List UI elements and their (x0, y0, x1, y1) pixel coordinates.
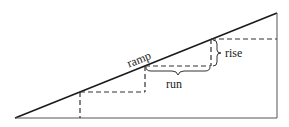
ramp-diagram: ramp run rise (0, 0, 289, 127)
rise-label: rise (225, 46, 242, 60)
rise-brace (213, 40, 221, 66)
ramp-label: ramp (125, 48, 153, 70)
run-brace (146, 67, 210, 75)
run-label: run (166, 77, 182, 91)
